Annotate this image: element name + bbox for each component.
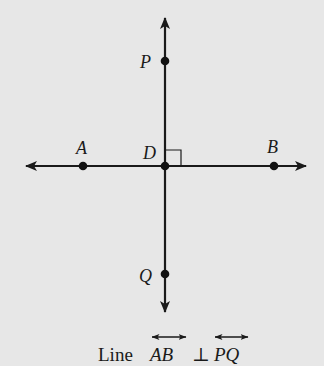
point-a: [79, 162, 88, 171]
label-b: B: [267, 137, 278, 157]
caption-perpendicular-symbol: ⊥: [192, 344, 210, 365]
perpendicular-lines-diagram: A B D P Q Line AB ⊥ PQ: [0, 0, 324, 366]
point-d: [161, 162, 170, 171]
label-p: P: [139, 52, 151, 72]
point-p: [161, 57, 170, 66]
label-a: A: [75, 138, 88, 158]
point-b: [270, 162, 279, 171]
caption-line-pq: PQ: [213, 344, 240, 365]
caption-line-ab: AB: [148, 344, 174, 365]
label-d: D: [142, 143, 156, 163]
caption: Line AB ⊥ PQ: [98, 337, 248, 365]
caption-prefix: Line: [98, 344, 138, 365]
label-q: Q: [139, 266, 152, 286]
point-q: [161, 270, 170, 279]
